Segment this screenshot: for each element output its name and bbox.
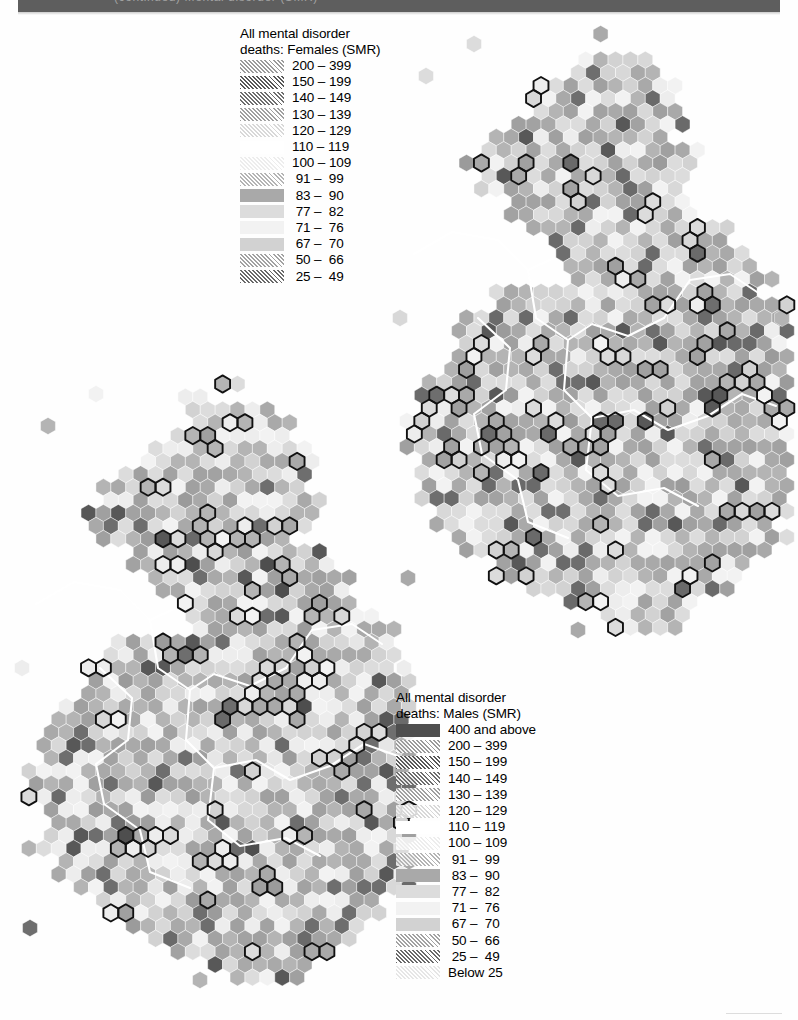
legend-swatch: [396, 853, 440, 866]
cartogram-hex[interactable]: [419, 67, 434, 84]
legend-swatch: [396, 837, 440, 850]
legend-swatch: [240, 108, 284, 121]
cartogram-males-svg: [0, 368, 420, 1020]
legend-swatch: [240, 124, 284, 137]
legend-swatch: [240, 221, 284, 234]
legend-males: All mental disorder deaths: Males (SMR) …: [396, 690, 536, 981]
running-header-band: (continued) Mental disorder (SMR): [18, 0, 780, 12]
legend-row: 67 – 70: [240, 236, 380, 252]
legend-swatch: [396, 724, 440, 737]
cartogram-hex[interactable]: [571, 621, 586, 638]
legend-swatch: [240, 92, 284, 105]
legend-label: 110 – 119: [448, 820, 505, 834]
legend-females-title: All mental disorder deaths: Females (SMR…: [240, 26, 380, 57]
legend-swatch: [396, 918, 440, 931]
running-header-text: (continued) Mental disorder (SMR): [114, 0, 318, 4]
legend-label: Below 25: [448, 966, 503, 980]
cartogram-hex[interactable]: [230, 375, 245, 392]
legend-row: 150 – 199: [396, 754, 536, 770]
region-boundary-white: [36, 582, 176, 620]
cartogram-hex[interactable]: [765, 271, 780, 288]
legend-row: 110 – 119: [396, 819, 536, 835]
legend-row: 91 – 99: [240, 171, 380, 187]
cartogram-hex[interactable]: [23, 919, 38, 936]
legend-label: 130 – 139: [292, 108, 351, 122]
legend-row: 100 – 109: [240, 155, 380, 171]
legend-row: 50 – 66: [240, 252, 380, 268]
legend-label: 50 – 66: [292, 253, 344, 267]
legend-label: 25 – 49: [448, 950, 500, 964]
legend-row: 71 – 76: [240, 220, 380, 236]
legend-label: 140 – 149: [448, 772, 507, 786]
legend-label: 71 – 76: [448, 901, 500, 915]
legend-females: All mental disorder deaths: Females (SMR…: [240, 26, 380, 285]
cartogram-hex[interactable]: [21, 840, 36, 857]
legend-label: 91 – 99: [448, 853, 500, 867]
cartogram-hex[interactable]: [41, 417, 56, 434]
legend-label: 150 – 199: [448, 755, 507, 769]
legend-males-title: All mental disorder deaths: Males (SMR): [396, 690, 536, 721]
legend-label: 120 – 129: [448, 804, 507, 818]
legend-swatch: [240, 141, 284, 154]
legend-row: 400 and above: [396, 722, 536, 738]
legend-row: 83 – 90: [240, 188, 380, 204]
legend-swatch: [240, 254, 284, 267]
legend-label: 91 – 99: [292, 172, 344, 186]
legend-swatch: [396, 869, 440, 882]
legend-row: 77 – 82: [240, 204, 380, 220]
cartogram-hex[interactable]: [459, 154, 474, 171]
cartogram-females-svg: [378, 18, 798, 658]
legend-swatch: [396, 788, 440, 801]
legend-row: 200 – 399: [396, 738, 536, 754]
legend-swatch: [396, 805, 440, 818]
legend-label: 130 – 139: [448, 788, 507, 802]
legend-label: 200 – 399: [292, 59, 351, 73]
legend-row: 71 – 76: [396, 900, 536, 916]
legend-row: 110 – 119: [240, 139, 380, 155]
legend-label: 140 – 149: [292, 91, 351, 105]
legend-label: 25 – 49: [292, 270, 344, 284]
legend-swatch: [396, 756, 440, 769]
legend-row: 91 – 99: [396, 852, 536, 868]
legend-label: 77 – 82: [448, 885, 500, 899]
cartogram-hex[interactable]: [15, 659, 30, 676]
legend-label: 100 – 109: [292, 156, 351, 170]
legend-swatch: [240, 238, 284, 251]
legend-swatch: [240, 270, 284, 283]
legend-males-rows: 400 and above200 – 399150 – 199140 – 149…: [396, 722, 536, 981]
legend-row: 140 – 149: [396, 771, 536, 787]
legend-swatch: [240, 205, 284, 218]
legend-row: 120 – 129: [240, 123, 380, 139]
header-shadow: [18, 12, 780, 15]
legend-swatch: [240, 173, 284, 186]
legend-row: 25 – 49: [240, 268, 380, 284]
legend-swatch: [396, 950, 440, 963]
legend-swatch: [240, 76, 284, 89]
legend-row: 50 – 66: [396, 932, 536, 948]
legend-swatch: [396, 966, 440, 979]
legend-label: 67 – 70: [292, 237, 344, 251]
cartogram-hex[interactable]: [393, 309, 408, 326]
legend-swatch: [396, 740, 440, 753]
legend-swatch: [396, 934, 440, 947]
legend-label: 120 – 129: [292, 124, 351, 138]
legend-label: 100 – 109: [448, 836, 507, 850]
legend-row: 67 – 70: [396, 916, 536, 932]
legend-label: 83 – 90: [448, 869, 500, 883]
cartogram-hex[interactable]: [89, 385, 104, 402]
legend-swatch: [396, 821, 440, 834]
legend-swatch: [396, 772, 440, 785]
legend-row: 130 – 139: [240, 107, 380, 123]
legend-row: 83 – 90: [396, 868, 536, 884]
cartogram-hex[interactable]: [593, 25, 608, 42]
cartogram-hex[interactable]: [467, 35, 482, 52]
legend-row: Below 25: [396, 965, 536, 981]
legend-label: 67 – 70: [448, 917, 500, 931]
legend-row: 130 – 139: [396, 787, 536, 803]
cartogram-hex[interactable]: [193, 971, 208, 988]
cartogram-hex[interactable]: [779, 529, 794, 546]
cartogram-males[interactable]: [0, 368, 420, 1020]
cartogram-females[interactable]: [378, 18, 798, 658]
legend-row: 25 – 49: [396, 949, 536, 965]
legend-row: 140 – 149: [240, 90, 380, 106]
